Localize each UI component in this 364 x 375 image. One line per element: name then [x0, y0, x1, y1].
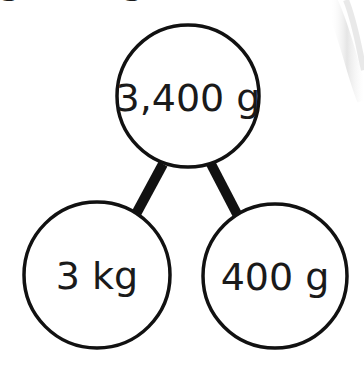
- part-label-right: 400 g: [221, 255, 330, 299]
- cut-text-middle: g: [121, 0, 145, 2]
- decorative-arc-icon: [330, 0, 364, 100]
- connector-right: [211, 164, 237, 214]
- part-label-left: 3 kg: [56, 254, 138, 298]
- connector-left: [136, 164, 163, 214]
- diagram-canvas: g g 3,400 g 3 kg 400 g: [0, 0, 364, 375]
- whole-label: 3,400 g: [116, 76, 261, 120]
- part-node-left: 3 kg: [24, 202, 170, 348]
- whole-node: 3,400 g: [116, 25, 261, 167]
- cut-text-left: g: [0, 0, 22, 2]
- number-bond-diagram: g g 3,400 g 3 kg 400 g: [0, 0, 364, 375]
- part-node-right: 400 g: [203, 204, 347, 348]
